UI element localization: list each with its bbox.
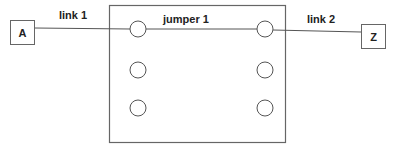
link-1-line (35, 28, 130, 29)
node-z-label: Z (370, 31, 377, 43)
link-2-label: link 2 (307, 13, 335, 25)
jumper-1-label: jumper 1 (162, 13, 209, 25)
diagram-canvas: A Z link 1 jumper 1 link 2 (0, 0, 398, 151)
link-1-label: link 1 (59, 9, 87, 21)
port-3-left[interactable] (130, 100, 146, 116)
link-2-line (273, 30, 361, 32)
port-2-left[interactable] (130, 62, 146, 78)
port-3-right[interactable] (257, 100, 273, 116)
port-2-right[interactable] (257, 62, 273, 78)
port-1-left[interactable] (130, 21, 146, 37)
port-1-right[interactable] (257, 21, 273, 37)
node-a-label: A (19, 27, 27, 39)
